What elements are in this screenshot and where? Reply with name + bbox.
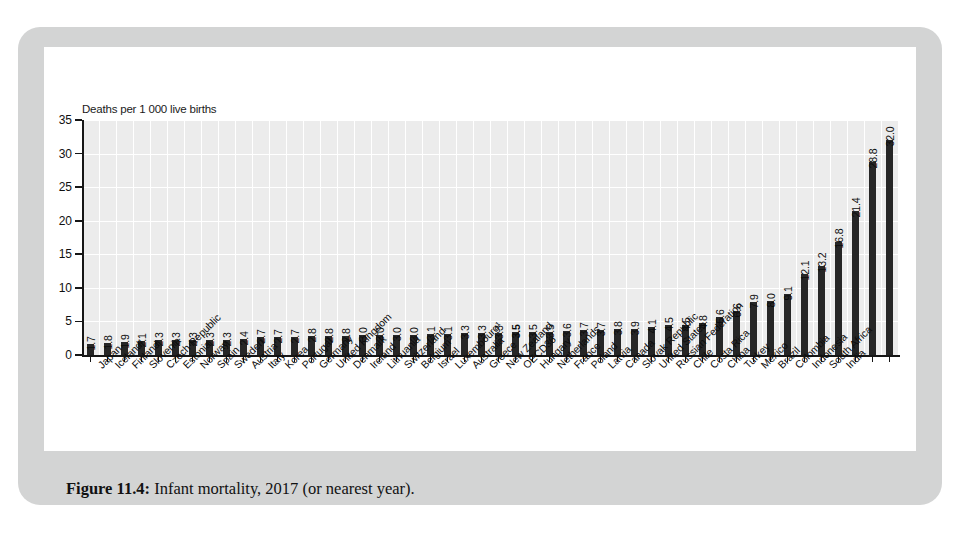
y-axis-title: Deaths per 1 000 live births xyxy=(82,103,216,115)
x-axis-category-label: Russian Federation xyxy=(674,363,681,370)
bar xyxy=(801,274,808,355)
chart-panel: Deaths per 1 000 live births 05101520253… xyxy=(44,47,916,451)
x-axis-category-label: Switzerland xyxy=(402,363,409,370)
grid-line-vertical xyxy=(405,120,406,355)
bar-value-label: 3.0 xyxy=(391,327,402,341)
bar-value-label: 2.7 xyxy=(289,329,300,343)
bar-value-label: 9.1 xyxy=(782,286,793,300)
x-axis-category-label: Australia xyxy=(470,363,477,370)
grid-line-vertical xyxy=(847,120,848,355)
x-axis-category-label: Slovenia xyxy=(147,363,154,370)
grid-line-vertical xyxy=(524,120,525,355)
x-axis-category-label: Denmark xyxy=(351,363,358,370)
x-axis-category-label: Iceland¹ xyxy=(113,363,120,370)
y-axis-tick xyxy=(75,354,82,356)
x-axis-category-label: Portugal xyxy=(300,363,307,370)
bar-value-label: 3.5 xyxy=(510,324,521,338)
grid-line-vertical xyxy=(507,120,508,355)
x-axis-category-label: Turkey xyxy=(742,363,749,370)
y-axis-tick-label: 5 xyxy=(46,315,72,327)
grid-line-vertical xyxy=(881,120,882,355)
x-axis-category-label: Costa Rica xyxy=(708,363,715,370)
y-axis-tick-label: 15 xyxy=(46,248,72,260)
x-axis-category-label: Spain xyxy=(215,363,222,370)
figure-page: Deaths per 1 000 live births 05101520253… xyxy=(0,0,974,537)
x-axis-category-label: Lithuania xyxy=(385,363,392,370)
x-axis-category-label: Canada xyxy=(623,363,630,370)
grid-line-vertical xyxy=(711,120,712,355)
grid-line-vertical xyxy=(184,120,185,355)
grid-line-vertical xyxy=(99,120,100,355)
bar-value-label: 16.8 xyxy=(833,229,844,249)
x-axis-category-label: Greece xyxy=(487,363,494,370)
x-axis-category-label: Germany xyxy=(317,363,324,370)
bar xyxy=(869,162,876,355)
bar-value-label: 13.2 xyxy=(816,253,827,273)
bar-value-label: 12.1 xyxy=(799,260,810,280)
bar-value-label: 3.8 xyxy=(612,322,623,336)
bar-value-label: 3.9 xyxy=(629,321,640,335)
x-axis-category-label: Czech Republic xyxy=(164,363,171,370)
x-axis-category-label: Brazil xyxy=(776,363,783,370)
grid-line-vertical xyxy=(133,120,134,355)
grid-line-vertical xyxy=(745,120,746,355)
grid-line-vertical xyxy=(303,120,304,355)
grid-line-vertical xyxy=(490,120,491,355)
grid-line-vertical xyxy=(796,120,797,355)
grid-line-vertical xyxy=(677,120,678,355)
x-axis-category-label: South Africa xyxy=(827,363,834,370)
x-axis-category-label: Chile xyxy=(691,363,698,370)
bar-value-label: 32.0 xyxy=(884,127,895,147)
figure-card: Deaths per 1 000 live births 05101520253… xyxy=(18,27,942,505)
grid-line-vertical xyxy=(235,120,236,355)
grid-line-vertical xyxy=(762,120,763,355)
x-axis-category-label: Korea xyxy=(283,363,290,370)
grid-line-vertical xyxy=(558,120,559,355)
x-axis-category-label: Latvia xyxy=(606,363,613,370)
grid-line-vertical xyxy=(116,120,117,355)
grid-line-vertical xyxy=(422,120,423,355)
grid-line-vertical xyxy=(830,120,831,355)
x-axis-category-label: Japan xyxy=(96,363,103,370)
grid-line-vertical xyxy=(609,120,610,355)
grid-line-vertical xyxy=(626,120,627,355)
x-axis-category-label: Norway xyxy=(198,363,205,370)
y-axis-tick-label: 10 xyxy=(46,282,72,294)
x-axis-category-label: Luxembourg¹ xyxy=(453,363,460,370)
grid-line-vertical xyxy=(864,120,865,355)
x-axis-category-label: Slovak Republic xyxy=(640,363,647,370)
x-axis-category-label: Ireland xyxy=(368,363,375,370)
y-axis-tick xyxy=(75,321,82,323)
bar-value-label: 2.4 xyxy=(238,331,249,345)
grid-line-vertical xyxy=(473,120,474,355)
grid-line-vertical xyxy=(575,120,576,355)
grid-line-vertical xyxy=(371,120,372,355)
y-axis-tick xyxy=(75,220,82,222)
y-axis-tick-label: 0 xyxy=(46,349,72,361)
y-axis-tick xyxy=(75,153,82,155)
figure-caption: Figure 11.4: Infant mortality, 2017 (or … xyxy=(66,479,415,499)
x-axis-category-label: France xyxy=(572,363,579,370)
bar-value-label: 2.7 xyxy=(272,329,283,343)
x-axis-category-label: Indonesia xyxy=(810,363,817,370)
y-axis-tick-label: 35 xyxy=(46,114,72,126)
grid-line-vertical xyxy=(592,120,593,355)
y-axis-tick-label: 25 xyxy=(46,181,72,193)
x-axis-category-label: OECD36 xyxy=(521,363,528,370)
y-axis-tick xyxy=(75,186,82,188)
x-axis-category-label: Hungary xyxy=(538,363,545,370)
bar-value-label: 7.9 xyxy=(748,294,759,308)
x-axis-category-label: Poland xyxy=(589,363,596,370)
y-axis-tick xyxy=(75,287,82,289)
grid-line-vertical xyxy=(320,120,321,355)
x-axis-category-label: Netherlands xyxy=(555,363,562,370)
y-axis-line xyxy=(82,120,84,356)
bar-value-label: 28.8 xyxy=(867,148,878,168)
x-axis-category-label: New Zealand xyxy=(504,363,511,370)
figure-caption-text: Infant mortality, 2017 (or nearest year)… xyxy=(150,479,415,498)
y-axis-tick xyxy=(75,253,82,255)
grid-line-vertical xyxy=(779,120,780,355)
grid-line-vertical xyxy=(660,120,661,355)
x-axis-tick xyxy=(889,357,890,362)
grid-line-vertical xyxy=(337,120,338,355)
